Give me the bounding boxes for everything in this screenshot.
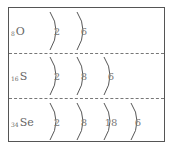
element-label-s: 16S (11, 71, 27, 82)
shell-count: 6 (77, 27, 91, 37)
element-label-o: 8O (11, 26, 25, 37)
shell-count: 2 (50, 118, 64, 128)
shell-count: 18 (104, 118, 118, 128)
shell-count: 8 (77, 72, 91, 82)
shell-count: 2 (50, 27, 64, 37)
shell-count: 2 (50, 72, 64, 82)
shell-count: 6 (104, 72, 118, 82)
shell-count: 8 (77, 118, 91, 128)
element-label-se: 34Se (11, 117, 34, 128)
shell-count: 6 (131, 118, 145, 128)
